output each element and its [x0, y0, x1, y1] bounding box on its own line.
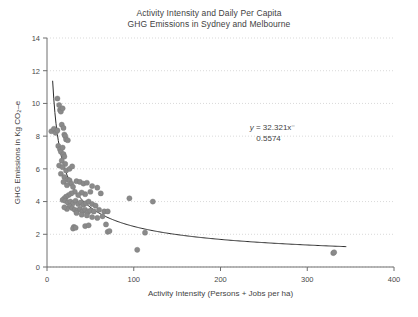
data-point [98, 191, 103, 196]
data-point [86, 223, 91, 228]
data-point [70, 184, 75, 189]
y-axis-title: GHG Emissions in Kg CO₂–e [13, 100, 22, 204]
y-axis-tick-label: 6 [36, 165, 40, 174]
data-point [60, 106, 65, 111]
data-point [88, 189, 93, 194]
data-point [64, 183, 69, 188]
data-point [135, 247, 140, 252]
data-point [107, 228, 112, 233]
x-axis-title: Activity Intensity (Persons + Jobs per h… [148, 289, 294, 298]
data-point [65, 138, 70, 143]
trendline-equation-line-1: y = 32.321x⁻ [249, 123, 296, 132]
data-point [70, 164, 75, 169]
data-point [84, 213, 89, 218]
data-point [142, 230, 147, 235]
data-point [61, 125, 66, 130]
y-axis-tick-label: 12 [32, 67, 40, 76]
data-point [79, 212, 84, 217]
y-axis-tick-label: 0 [36, 263, 40, 272]
data-point [93, 203, 98, 208]
data-point [55, 96, 60, 101]
trendline-equation-line-2: 0.5574 [256, 134, 281, 143]
y-axis-tick-label: 2 [36, 230, 40, 239]
y-axis-tick-label: 10 [32, 99, 40, 108]
data-point [73, 225, 78, 230]
data-point [60, 145, 65, 150]
data-point [55, 128, 60, 133]
data-point [95, 185, 100, 190]
data-point [150, 199, 155, 204]
data-point [105, 209, 110, 214]
y-axis-tick-label: 8 [36, 132, 40, 141]
data-point [100, 214, 105, 219]
y-axis-tick-label: 14 [32, 34, 40, 43]
y-axis-tick-label: 4 [36, 197, 40, 206]
x-axis-tick-label: 400 [388, 275, 401, 284]
chart-container: Activity Intensity and Daily Per Capita … [0, 0, 418, 317]
data-point [103, 222, 108, 227]
data-point [74, 210, 79, 215]
data-point [84, 180, 89, 185]
trendline [53, 81, 347, 247]
data-point [90, 183, 95, 188]
data-point [96, 207, 101, 212]
x-axis-tick-label: 100 [127, 275, 140, 284]
x-axis-tick-label: 200 [214, 275, 227, 284]
data-point [332, 250, 337, 255]
x-axis-tick-label: 0 [45, 275, 49, 284]
data-point [127, 196, 132, 201]
data-point [90, 215, 95, 220]
scatter-plot: 024681012140100200300400Activity Intensi… [0, 0, 418, 317]
data-point [62, 205, 67, 210]
data-point [91, 209, 96, 214]
x-axis-tick-label: 300 [301, 275, 314, 284]
data-point [95, 215, 100, 220]
